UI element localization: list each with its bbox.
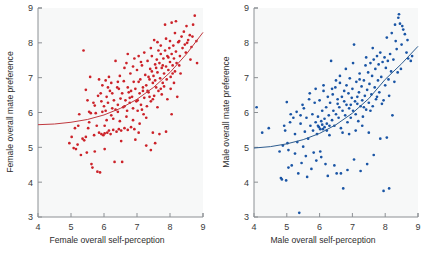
data-point: [88, 121, 91, 124]
data-point: [178, 40, 181, 43]
x-tick-labels-female: 456789: [35, 222, 205, 232]
data-point: [320, 120, 323, 123]
data-point: [155, 58, 158, 61]
data-point: [331, 119, 334, 122]
data-point: [111, 92, 114, 95]
data-point: [150, 100, 153, 103]
data-point: [392, 58, 395, 61]
data-point: [287, 166, 290, 169]
data-point: [379, 137, 382, 140]
data-point: [321, 109, 324, 112]
data-point: [151, 82, 154, 85]
data-point: [112, 117, 115, 120]
data-point: [170, 113, 173, 116]
data-point: [399, 22, 402, 25]
data-point: [335, 79, 338, 82]
data-point: [358, 91, 361, 94]
data-point: [292, 116, 295, 119]
data-point: [91, 166, 94, 169]
data-point: [142, 86, 145, 89]
data-point: [172, 44, 175, 47]
data-point: [169, 87, 172, 90]
data-point: [332, 109, 335, 112]
data-point: [159, 87, 162, 90]
data-point: [362, 115, 365, 118]
data-point: [90, 163, 93, 166]
data-point: [377, 63, 380, 66]
data-point: [142, 113, 145, 116]
figure-root: 3456789 456789 Female overall self-perce…: [0, 0, 428, 253]
x-tick-label-4: 4: [251, 222, 256, 232]
y-axis-title-male: Male overall mate preference: [221, 56, 231, 168]
data-point: [126, 53, 129, 56]
data-point: [115, 130, 118, 133]
data-point: [349, 116, 352, 119]
data-point: [183, 30, 186, 33]
y-tick-label-8: 8: [28, 38, 33, 48]
data-point: [341, 131, 344, 134]
y-tick-label-9: 9: [28, 3, 33, 13]
data-point: [139, 78, 142, 81]
data-point: [77, 124, 80, 127]
data-point: [335, 113, 338, 116]
scatter-plot-male: 3456789 456789 Male overall self-percept…: [214, 0, 428, 253]
data-point: [150, 149, 153, 152]
data-point: [168, 47, 171, 50]
data-point: [110, 114, 113, 117]
data-point: [317, 115, 320, 118]
data-point: [294, 133, 297, 136]
data-point: [95, 124, 98, 127]
data-point: [306, 176, 309, 179]
data-point: [355, 81, 358, 84]
data-point: [379, 51, 382, 54]
data-point: [181, 47, 184, 50]
data-point: [159, 77, 162, 80]
data-point: [136, 109, 139, 112]
data-point: [145, 116, 148, 119]
data-point: [93, 134, 96, 137]
y-tick-label-8: 8: [244, 38, 249, 48]
data-point: [287, 149, 290, 152]
y-axis-title-female: Female overall mate preference: [5, 51, 15, 173]
data-point: [373, 86, 376, 89]
data-point: [409, 60, 412, 63]
data-point: [375, 98, 378, 101]
data-point: [133, 57, 136, 60]
data-point: [186, 41, 189, 44]
data-point: [98, 78, 101, 81]
data-point: [134, 138, 137, 141]
data-point: [93, 150, 96, 153]
data-point: [98, 131, 101, 134]
data-point: [319, 128, 322, 131]
data-point: [141, 108, 144, 111]
data-point: [148, 78, 151, 81]
data-point: [322, 84, 325, 87]
data-point: [289, 121, 292, 124]
data-point: [150, 47, 153, 50]
x-axis-title-female: Female overall self-perception: [49, 235, 164, 245]
data-point: [353, 43, 356, 46]
data-point: [99, 171, 102, 174]
data-point: [145, 84, 148, 87]
data-point: [384, 84, 387, 87]
data-point: [358, 78, 361, 81]
data-point: [83, 139, 86, 142]
data-point: [404, 33, 407, 36]
data-point: [137, 81, 140, 84]
data-point: [103, 124, 106, 127]
data-point: [103, 105, 106, 108]
x-tick-label-6: 6: [101, 222, 106, 232]
data-point: [356, 102, 359, 105]
data-point: [337, 116, 340, 119]
data-point: [340, 127, 343, 130]
data-point: [348, 107, 351, 110]
data-point: [284, 129, 287, 132]
data-point: [154, 63, 157, 66]
data-point: [85, 136, 88, 139]
x-tick-label-6: 6: [317, 222, 322, 232]
x-axis-title-male: Male overall self-perception: [270, 235, 375, 245]
data-point: [334, 86, 337, 89]
data-point: [94, 112, 97, 115]
data-point: [164, 23, 167, 26]
data-point: [101, 84, 104, 87]
